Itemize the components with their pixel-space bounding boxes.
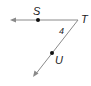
point-u <box>50 51 54 55</box>
arrowhead-left-icon <box>10 18 16 23</box>
ray-tu <box>33 20 78 77</box>
label-u: U <box>55 54 63 66</box>
label-s: S <box>33 5 41 17</box>
ray-ts <box>10 18 78 23</box>
angle-label: 4 <box>59 26 64 36</box>
point-s <box>36 18 40 22</box>
label-t: T <box>81 13 89 25</box>
angle-diagram: S T U 4 <box>0 0 91 86</box>
